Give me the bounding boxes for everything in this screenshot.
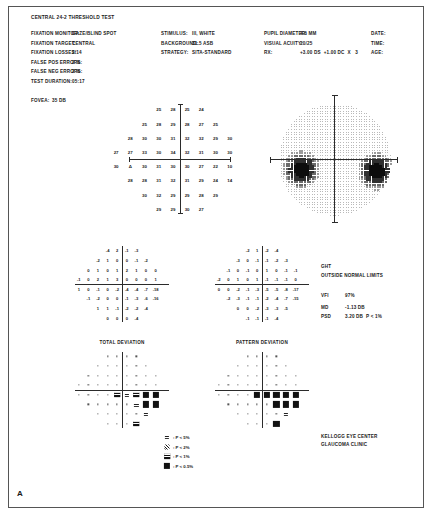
stimulus-label-0: STIMULUS: <box>161 32 188 37</box>
grayscale-cell <box>301 152 303 154</box>
grayscale-cell <box>335 111 336 112</box>
grayscale-cell <box>322 176 323 177</box>
grayscale-cell <box>356 204 357 205</box>
grayscale-cell <box>335 207 336 208</box>
grayscale-cell <box>343 176 344 177</box>
grayscale-cell <box>288 145 289 146</box>
grayscale-cell <box>312 197 313 198</box>
threshold-value-cell: 30 <box>156 135 161 140</box>
grayscale-cell <box>317 189 318 190</box>
grayscale-cell <box>351 137 352 138</box>
grayscale-cell <box>317 139 318 140</box>
grayscale-cell <box>294 132 295 133</box>
grayscale-cell <box>309 142 310 143</box>
pattern-deviation-symbol-p05 <box>254 392 260 398</box>
grayscale-cell <box>338 124 339 125</box>
grayscale-cell <box>348 184 349 185</box>
grayscale-cell <box>366 116 367 117</box>
grayscale-cell <box>320 197 321 198</box>
grayscale-cell <box>312 116 313 117</box>
grayscale-cell <box>348 137 349 138</box>
grayscale-cell <box>348 119 349 120</box>
grayscale-cell <box>346 184 347 185</box>
pattern-deviation-symbol-p05 <box>273 421 279 427</box>
threshold-value-cell: 27 <box>128 149 133 154</box>
grayscale-cell <box>322 124 323 125</box>
grayscale-cell <box>314 184 315 185</box>
grayscale-cell <box>343 152 344 153</box>
vertical-meridian-axis <box>262 352 263 429</box>
grayscale-cell <box>322 160 323 161</box>
grayscale-cell <box>353 199 354 200</box>
grayscale-cell <box>307 132 308 133</box>
vfi-value: 97% <box>345 294 355 299</box>
total-deviation-symbol-normal-dot <box>136 365 137 366</box>
grayscale-cell <box>369 134 370 135</box>
grayscale-cell <box>288 129 289 130</box>
grayscale-cell <box>322 155 323 156</box>
grayscale-cell <box>294 145 295 146</box>
grayscale-cell <box>351 111 352 112</box>
grayscale-cell <box>338 121 339 122</box>
grayscale-cell <box>353 147 354 148</box>
grayscale-cell <box>377 194 378 195</box>
total-deviation-symbol-normal-dot <box>97 413 98 414</box>
grayscale-cell <box>353 178 354 179</box>
grayscale-cell <box>335 119 336 120</box>
grayscale-cell <box>330 184 331 185</box>
grayscale-cell <box>330 165 331 166</box>
grayscale-cell <box>335 173 336 174</box>
grayscale-cell <box>351 147 352 148</box>
grayscale-cell <box>317 171 319 173</box>
grayscale-cell <box>364 129 365 130</box>
pattern-deviation-value-cell: -2 <box>265 248 269 253</box>
pattern-deviation-symbol-normal-dot <box>247 356 248 357</box>
total-deviation-value-cell: -1 <box>125 296 129 301</box>
pattern-deviation-value-cell: 0 <box>227 286 229 291</box>
pattern-deviation-value-cell: 0 <box>246 277 248 282</box>
grayscale-cell <box>320 142 321 143</box>
grayscale-cell <box>356 163 357 164</box>
vertical-meridian-axis <box>180 104 181 215</box>
grayscale-cell <box>309 194 310 195</box>
grayscale-cell <box>335 176 336 177</box>
grayscale-cell <box>330 181 331 182</box>
grayscale-cell <box>356 126 357 127</box>
total-deviation-value-cell: 3 <box>116 277 118 282</box>
grayscale-cell <box>348 134 349 135</box>
grayscale-cell <box>343 129 344 130</box>
grayscale-cell <box>346 113 347 114</box>
grayscale-cell <box>320 139 321 140</box>
total-deviation-value-cell: 0 <box>135 277 137 282</box>
grayscale-cell <box>351 155 352 156</box>
total-deviation-symbol-normal-dot <box>97 365 98 366</box>
grayscale-cell <box>299 194 300 195</box>
grayscale-cell <box>346 168 347 169</box>
total-deviation-value-cell: 0 <box>116 296 118 301</box>
grayscale-cell <box>356 197 357 198</box>
grayscale-cell <box>346 134 347 135</box>
grayscale-cell <box>288 152 289 153</box>
grayscale-cell <box>304 147 305 148</box>
grayscale-cell <box>335 124 336 125</box>
grayscale-cell <box>330 106 331 107</box>
meta-label-2: AGE: <box>371 51 383 56</box>
grayscale-tick-bottom <box>332 222 338 223</box>
grayscale-cell <box>340 129 341 130</box>
grayscale-cell <box>346 163 347 164</box>
grayscale-cell <box>327 119 328 120</box>
grayscale-cell <box>387 176 389 178</box>
pattern-deviation-value-cell: 0 <box>237 306 239 311</box>
grayscale-cell <box>348 168 349 169</box>
grayscale-cell <box>346 207 347 208</box>
grayscale-cell <box>330 116 331 117</box>
pattern-deviation-value-cell: -2 <box>236 286 240 291</box>
grayscale-cell <box>335 199 336 200</box>
grayscale-cell <box>296 132 297 133</box>
grayscale-cell <box>338 186 339 187</box>
total-deviation-value-cell: -2 <box>144 258 148 263</box>
grayscale-cell <box>346 152 347 153</box>
grayscale-cell <box>335 121 336 122</box>
grayscale-cell <box>294 186 295 187</box>
total-deviation-value-cell: 2 <box>97 277 99 282</box>
